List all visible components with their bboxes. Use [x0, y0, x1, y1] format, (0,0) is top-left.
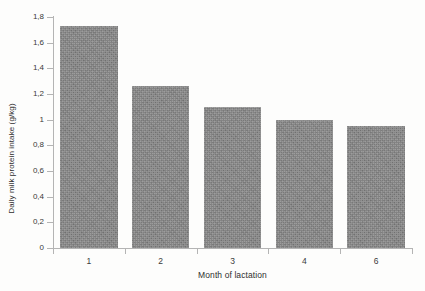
x-tick-mark	[125, 249, 126, 254]
x-axis-line	[53, 248, 413, 249]
x-tick-mark	[197, 249, 198, 254]
y-tick-label: 1,2	[14, 90, 44, 98]
y-tick-label: 1,8	[14, 13, 44, 21]
y-tick-label: 0,6	[14, 167, 44, 175]
bar	[347, 126, 404, 248]
y-tick-label: 0,2	[14, 218, 44, 226]
x-axis-title: Month of lactation	[53, 270, 412, 280]
x-tick-mark	[53, 249, 54, 254]
bar	[132, 86, 189, 248]
bar	[60, 26, 117, 248]
x-tick-mark	[340, 249, 341, 254]
x-tick-label: 4	[284, 256, 324, 266]
x-tick-label: 3	[213, 256, 253, 266]
x-tick-mark	[268, 249, 269, 254]
y-tick-label: 0	[14, 244, 44, 252]
bar	[204, 107, 261, 248]
x-tick-mark	[412, 249, 413, 254]
x-tick-label: 1	[69, 256, 109, 266]
bar	[276, 120, 333, 248]
y-tick-label: 1,4	[14, 64, 44, 72]
y-tick-label: 0,4	[14, 193, 44, 201]
bar-chart: Daily milk protein intake (g/kg) 00,20,4…	[0, 0, 425, 291]
x-tick-label: 2	[141, 256, 181, 266]
y-tick-label: 1,6	[14, 39, 44, 47]
y-tick-label: 1	[14, 116, 44, 124]
y-tick-label: 0,8	[14, 141, 44, 149]
x-tick-label: 6	[356, 256, 396, 266]
plot-area	[53, 17, 412, 248]
